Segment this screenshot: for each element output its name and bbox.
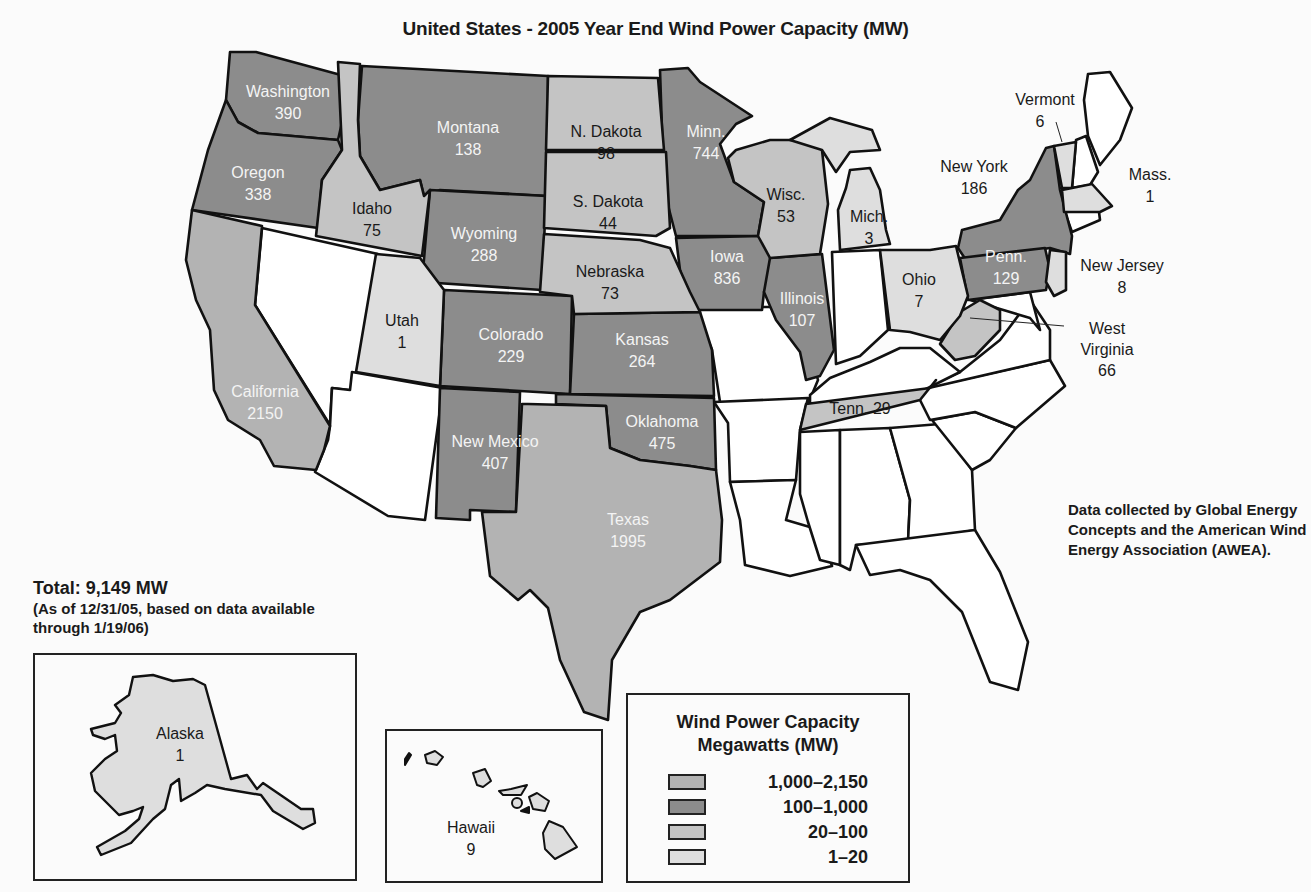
label-nebraska: Nebraska xyxy=(576,263,645,280)
total-note: Total: 9,149 MW (As of 12/31/05, based o… xyxy=(33,578,363,637)
island-kahoolawe xyxy=(521,807,529,813)
value-texas: 1995 xyxy=(610,533,646,550)
value-pennsylvania: 129 xyxy=(993,270,1020,287)
value-utah: 1 xyxy=(398,334,407,351)
label-west-virginia-2: Virginia xyxy=(1080,341,1133,358)
legend-swatch xyxy=(668,824,706,840)
value-colorado: 229 xyxy=(498,348,525,365)
island-kauai xyxy=(425,751,443,765)
label-west-virginia-1: West xyxy=(1089,320,1126,337)
label-utah: Utah xyxy=(385,312,419,329)
hawaii-map: Hawaii 9 xyxy=(387,731,601,881)
legend-item-20-100: 20–100 xyxy=(668,824,706,840)
alaska-map: Alaska 1 xyxy=(35,655,355,879)
value-hawaii: 9 xyxy=(467,841,476,858)
value-oregon: 338 xyxy=(245,186,272,203)
value-illinois: 107 xyxy=(789,312,816,329)
value-oklahoma: 475 xyxy=(649,435,676,452)
label-ohio: Ohio xyxy=(902,271,936,288)
label-oklahoma: Oklahoma xyxy=(626,413,699,430)
vermont-leader-line xyxy=(1056,122,1062,142)
total-capacity: Total: 9,149 MW xyxy=(33,578,363,599)
value-n-dakota: 98 xyxy=(597,145,615,162)
label-new-mexico: New Mexico xyxy=(451,433,538,450)
alaska-inset: Alaska 1 xyxy=(33,653,357,881)
label-massachusetts: Mass. xyxy=(1129,166,1172,183)
island-molokai xyxy=(499,785,527,795)
label-wyoming: Wyoming xyxy=(451,225,518,242)
label-new-jersey: New Jersey xyxy=(1080,257,1164,274)
legend-item-100-1000: 100–1,000 xyxy=(668,799,706,815)
label-s-dakota: S. Dakota xyxy=(573,193,643,210)
legend-label: 100–1,000 xyxy=(738,797,868,818)
value-wyoming: 288 xyxy=(471,247,498,264)
label-minnesota: Minn. xyxy=(686,123,725,140)
state-florida xyxy=(856,530,1028,690)
legend-label: 1–20 xyxy=(738,847,868,868)
value-kansas: 264 xyxy=(629,353,656,370)
legend-swatch xyxy=(668,849,706,865)
label-pennsylvania: Penn. xyxy=(985,248,1027,265)
legend-item-1000-2150: 1,000–2,150 xyxy=(668,774,706,790)
value-alaska: 1 xyxy=(176,747,185,764)
label-oregon: Oregon xyxy=(231,164,284,181)
value-wisconsin: 53 xyxy=(777,208,795,225)
label-illinois: Illinois xyxy=(780,290,824,307)
island-oahu xyxy=(473,769,491,787)
state-arkansas xyxy=(714,398,808,482)
value-new-york: 186 xyxy=(961,180,988,197)
legend-swatch xyxy=(668,799,706,815)
label-alaska: Alaska xyxy=(156,725,204,742)
label-hawaii: Hawaii xyxy=(447,819,495,836)
island-maui xyxy=(529,793,549,811)
label-washington: Washington xyxy=(246,83,330,100)
label-montana: Montana xyxy=(437,119,499,136)
legend-title-2: Megawatts (MW) xyxy=(628,734,908,757)
value-ohio: 7 xyxy=(915,293,924,310)
label-colorado: Colorado xyxy=(479,326,544,343)
label-idaho: Idaho xyxy=(352,200,392,217)
label-wisconsin: Wisc. xyxy=(766,186,805,203)
value-west-virginia: 66 xyxy=(1098,362,1116,379)
value-massachusetts: 1 xyxy=(1146,188,1155,205)
state-massachusetts xyxy=(1062,184,1112,212)
value-idaho: 75 xyxy=(363,222,381,239)
label-kansas: Kansas xyxy=(615,331,668,348)
value-california: 2150 xyxy=(247,405,283,422)
value-iowa: 836 xyxy=(714,270,741,287)
label-n-dakota: N. Dakota xyxy=(570,123,641,140)
label-iowa: Iowa xyxy=(710,248,744,265)
label-california: California xyxy=(231,383,299,400)
legend: Wind Power Capacity Megawatts (MW) 1,000… xyxy=(626,693,910,883)
value-michigan: 3 xyxy=(865,230,874,247)
legend-item-1-20: 1–20 xyxy=(668,849,706,865)
value-new-mexico: 407 xyxy=(482,455,509,472)
hawaii-inset: Hawaii 9 xyxy=(385,729,603,883)
island-big-island xyxy=(543,821,577,859)
data-source-credit: Data collected by Global Energy Concepts… xyxy=(1068,500,1308,560)
legend-swatch xyxy=(668,774,706,790)
value-minnesota: 744 xyxy=(693,145,720,162)
value-montana: 138 xyxy=(455,141,482,158)
state-alaska xyxy=(91,675,315,855)
value-new-jersey: 8 xyxy=(1118,279,1127,296)
state-arizona xyxy=(315,372,443,520)
legend-label: 20–100 xyxy=(738,822,868,843)
island-niihau xyxy=(405,753,411,765)
value-vermont: 6 xyxy=(1036,113,1045,130)
total-date-note: (As of 12/31/05, based on data available… xyxy=(33,599,363,637)
label-vermont: Vermont xyxy=(1015,91,1075,108)
state-new-jersey xyxy=(1046,250,1066,296)
state-new-mexico xyxy=(436,388,520,520)
legend-label: 1,000–2,150 xyxy=(738,772,868,793)
island-lanai xyxy=(512,798,522,808)
state-indiana xyxy=(832,250,888,364)
value-nebraska: 73 xyxy=(601,285,619,302)
value-s-dakota: 44 xyxy=(599,215,617,232)
legend-title-1: Wind Power Capacity xyxy=(628,711,908,734)
value-washington: 390 xyxy=(275,105,302,122)
label-texas: Texas xyxy=(607,511,649,528)
label-michigan: Mich. xyxy=(850,208,888,225)
label-tennessee: Tenn. 29 xyxy=(829,400,890,417)
label-new-york: New York xyxy=(940,158,1009,175)
